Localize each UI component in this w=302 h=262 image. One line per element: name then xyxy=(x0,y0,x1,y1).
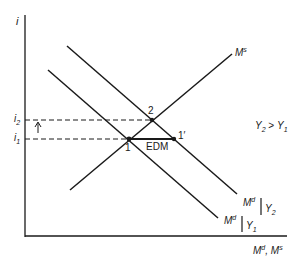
income-comparison-label: Y2 > Y1 xyxy=(255,121,288,133)
i2-tick-label: i2 xyxy=(14,114,20,126)
money-demand-y1-condition: Y1 xyxy=(246,221,257,233)
point-1prime-label: 1′ xyxy=(178,131,185,141)
point-1-label: 1 xyxy=(125,143,131,153)
point-1prime-dot xyxy=(172,137,176,141)
x-axis-label: Md, Ms xyxy=(253,244,283,256)
point-2-label: 2 xyxy=(148,106,154,116)
excess-demand-label: EDM xyxy=(146,142,168,152)
money-supply-label: Ms xyxy=(235,46,247,58)
y-axis-label: i xyxy=(16,16,18,27)
money-demand-curve-y1 xyxy=(48,70,218,218)
money-supply-curve xyxy=(70,54,232,190)
point-2-dot xyxy=(150,118,154,122)
money-demand-y2-condition: Y2 xyxy=(265,204,276,216)
i1-tick-label: i1 xyxy=(14,133,20,145)
money-demand-y2-label: Md xyxy=(243,196,255,208)
point-1-dot xyxy=(127,137,132,142)
money-demand-y1-label: Md xyxy=(224,214,236,226)
